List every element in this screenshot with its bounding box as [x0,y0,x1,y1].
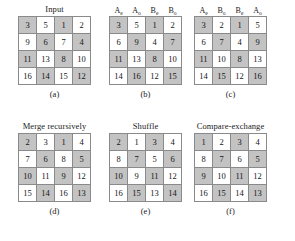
column-header-c-1: Bo [213,6,231,16]
grid-cell-f-r3c0: 16 [195,185,213,202]
grid-row: 1091112 [110,168,182,185]
grid-cell-e-r2c3: 12 [164,168,182,185]
grid-cell-c-r3c3: 16 [249,68,267,85]
grid-row: 3512 [19,17,91,34]
column-header-b-0: Ae [110,6,128,16]
panel-caption-e: (e) [141,205,150,217]
column-header-subscript: e [241,10,243,16]
grid-cell-f-r0c3: 4 [249,134,267,151]
grid-c: 32156749111081314151216 [194,16,267,85]
column-header-subscript: e [156,10,158,16]
grid-cell-b-r1c0: 6 [110,34,128,51]
column-header-base: B [168,6,173,15]
grid-cell-f-r2c0: 9 [195,168,213,185]
grid-cell-a-r1c0: 9 [19,34,37,51]
grid-cell-d-r2c0: 10 [19,168,37,185]
grid-cell-e-r3c2: 13 [146,185,164,202]
panel-d: Merge recursively23147685101191215141613… [18,121,91,217]
column-header-b-3: Bo [164,6,182,16]
grid-cell-e-r2c2: 11 [146,168,164,185]
grid-cell-a-r0c2: 1 [55,17,73,34]
grid-cell-c-r1c0: 6 [195,34,213,51]
grid-row: 9101112 [195,168,267,185]
grid-cell-a-r3c2: 15 [55,68,73,85]
column-header-b-1: Ao [128,6,146,16]
panel-title-e: Shuffle [133,121,159,133]
column-header-c-2: Be [231,6,249,16]
grid-cell-d-r3c2: 16 [55,185,73,202]
panel-caption-a: (a) [50,88,59,100]
grid-cell-a-r2c1: 13 [37,51,55,68]
grid-cell-c-r0c2: 1 [231,17,249,34]
grid-cell-a-r0c3: 2 [73,17,91,34]
grid-cell-c-r0c1: 2 [213,17,231,34]
panel-a: Input35129674111381016141512(a) [18,4,91,100]
grid-cell-d-r0c2: 1 [55,134,73,151]
figure-row-top: Input35129674111381016141512(a)AeAoBeBo3… [0,4,295,121]
grid-cell-d-r3c1: 14 [37,185,55,202]
grid-cell-b-r3c3: 15 [164,68,182,85]
grid-cell-f-r3c2: 14 [231,185,249,202]
column-header-subscript: e [120,10,122,16]
grid-cell-b-r3c2: 12 [146,68,164,85]
grid-row: 1234 [195,134,267,151]
figure-row-bottom: Merge recursively23147685101191215141613… [0,121,295,238]
panel-caption-b: (b) [141,88,151,100]
grid-cell-d-r2c3: 12 [73,168,91,185]
grid-cell-c-r0c0: 3 [195,17,213,34]
grid-cell-e-r0c2: 3 [146,134,164,151]
grid-cell-c-r2c1: 10 [213,51,231,68]
grid-cell-f-r2c1: 10 [213,168,231,185]
panel-b: AeAoBeBo35126947111381014161215(b) [109,4,182,100]
grid-cell-c-r0c3: 5 [249,17,267,34]
figure-container: Input35129674111381016141512(a)AeAoBeBo3… [0,0,295,241]
grid-cell-b-r1c1: 9 [128,34,146,51]
column-headers-b: AeAoBeBo [110,4,182,16]
grid-row: 2314 [19,134,91,151]
grid-a: 35129674111381016141512 [18,16,91,85]
grid-row: 16141512 [19,68,91,85]
grid-cell-a-r1c3: 4 [73,34,91,51]
grid-cell-e-r1c3: 6 [164,151,182,168]
grid-cell-f-r1c1: 7 [213,151,231,168]
grid-cell-c-r3c1: 15 [213,68,231,85]
grid-e: 21348756109111216151314 [109,133,182,202]
grid-f: 12348765910111216151413 [194,133,267,202]
grid-cell-e-r0c3: 4 [164,134,182,151]
grid-cell-a-r1c2: 7 [55,34,73,51]
grid-cell-c-r2c3: 13 [249,51,267,68]
panel-title-f: Compare-exchange [197,121,265,133]
grid-cell-f-r2c2: 11 [231,168,249,185]
grid-row: 8756 [110,151,182,168]
grid-cell-a-r0c1: 5 [37,17,55,34]
column-header-subscript: o [259,10,262,16]
grid-cell-f-r3c3: 13 [249,185,267,202]
panel-f: Compare-exchange12348765910111216151413(… [194,121,267,217]
grid-cell-b-r1c2: 4 [146,34,164,51]
grid-cell-e-r1c1: 7 [128,151,146,168]
grid-cell-d-r3c0: 15 [19,185,37,202]
grid-cell-d-r0c1: 3 [37,134,55,151]
grid-cell-a-r2c0: 11 [19,51,37,68]
grid-cell-b-r0c3: 2 [164,17,182,34]
grid-row: 16151413 [195,185,267,202]
grid-cell-c-r1c3: 9 [249,34,267,51]
grid-cell-d-r1c2: 8 [55,151,73,168]
grid-cell-e-r0c0: 2 [110,134,128,151]
grid-cell-e-r0c1: 1 [128,134,146,151]
grid-cell-b-r2c0: 11 [110,51,128,68]
grid-cell-f-r1c3: 5 [249,151,267,168]
grid-cell-d-r1c3: 5 [73,151,91,168]
grid-row: 3215 [195,17,267,34]
grid-cell-c-r2c2: 8 [231,51,249,68]
grid-cell-b-r1c3: 7 [164,34,182,51]
grid-row: 1113810 [110,51,182,68]
grid-cell-c-r1c1: 7 [213,34,231,51]
grid-cell-f-r3c1: 15 [213,185,231,202]
grid-cell-d-r1c1: 6 [37,151,55,168]
grid-row: 3512 [110,17,182,34]
grid-cell-d-r2c2: 9 [55,168,73,185]
grid-cell-e-r1c2: 5 [146,151,164,168]
grid-cell-b-r0c0: 3 [110,17,128,34]
grid-b: 35126947111381014161215 [109,16,182,85]
